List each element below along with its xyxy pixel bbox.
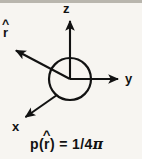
hat-accent-icon: ^ (2, 18, 9, 30)
r-hat-vector-line (16, 51, 70, 80)
axis-label-y: y (125, 72, 132, 85)
figure-canvas: z y x ^ r p(^r) = 1/4π (0, 0, 142, 159)
equation-function-name: p (30, 136, 39, 152)
x-axis-line (26, 95, 58, 117)
equation-hat-accent-icon: ^ (43, 128, 51, 141)
axis-label-x: x (12, 120, 19, 133)
equation-caption: p(^r) = 1/4π (30, 136, 103, 152)
r-hat-glyph-stack: ^ r (3, 26, 8, 39)
equation-pi-symbol: π (93, 136, 104, 152)
equation-r-hat-glyph-stack: ^r (44, 136, 50, 152)
vector-label-r-hat: ^ r (3, 26, 8, 39)
axis-label-z: z (63, 2, 70, 15)
equation-value: 1/4 (72, 136, 93, 152)
equation-equals-sign: = (59, 136, 68, 152)
